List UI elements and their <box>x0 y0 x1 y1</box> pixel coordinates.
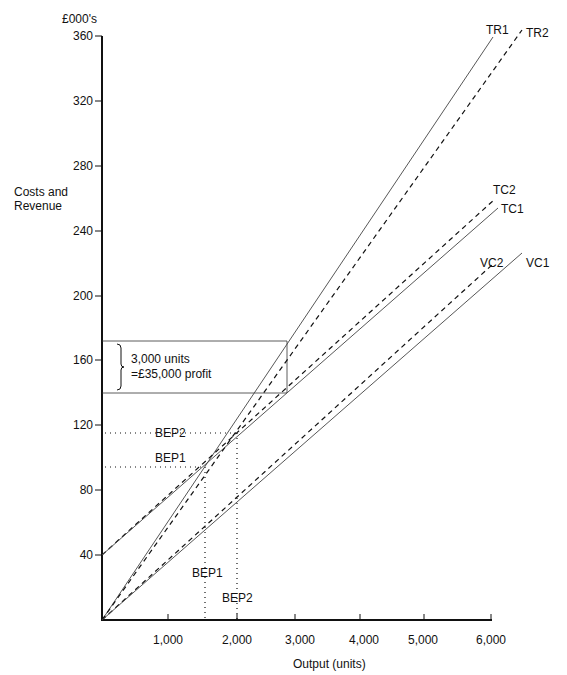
profit-text-line1: 3,000 units <box>131 352 190 366</box>
x-ticks: 1,000 2,000 3,000 4,000 5,000 6,000 <box>153 614 506 647</box>
y-tick-360: 360 <box>73 29 93 43</box>
tr1-line <box>102 37 493 620</box>
bep2-h-label: BEP2 <box>155 426 186 440</box>
y-tick-200: 200 <box>73 289 93 303</box>
profit-text-line2: =£35,000 profit <box>131 367 212 381</box>
y-tick-160: 160 <box>73 353 93 367</box>
tc1-line <box>102 208 498 555</box>
y-tick-320: 320 <box>73 94 93 108</box>
x-tick-1000: 1,000 <box>153 633 183 647</box>
vc2-line <box>102 264 493 620</box>
y-tick-40: 40 <box>80 548 94 562</box>
vc1-label: VC1 <box>526 256 550 270</box>
x-axis-label: Output (units) <box>293 657 366 671</box>
tr1-label: TR1 <box>486 23 509 37</box>
bep1-h-label: BEP1 <box>155 451 186 465</box>
y-tick-280: 280 <box>73 159 93 173</box>
break-even-chart: £000's Costs and Revenue 40 80 120 160 2… <box>0 0 567 675</box>
x-tick-5000: 5,000 <box>408 633 438 647</box>
tr2-label: TR2 <box>526 26 549 40</box>
y-tick-80: 80 <box>80 483 94 497</box>
tc1-label: TC1 <box>501 202 524 216</box>
x-tick-2000: 2,000 <box>222 633 252 647</box>
x-tick-6000: 6,000 <box>476 633 506 647</box>
y-ticks: 40 80 120 160 200 240 280 320 360 <box>73 29 102 562</box>
brace-icon <box>117 344 124 390</box>
series-lines <box>102 30 522 620</box>
y-unit-label: £000's <box>62 12 97 26</box>
y-axis-label-line1: Costs and <box>14 185 68 199</box>
bep2-v-label: BEP2 <box>222 591 253 605</box>
bep1-v-label: BEP1 <box>192 566 223 580</box>
y-tick-240: 240 <box>73 224 93 238</box>
tc2-label: TC2 <box>493 183 516 197</box>
y-tick-120: 120 <box>73 418 93 432</box>
x-tick-3000: 3,000 <box>285 633 315 647</box>
vc2-label: VC2 <box>480 256 504 270</box>
x-tick-4000: 4,000 <box>349 633 379 647</box>
y-axis-label-line2: Revenue <box>14 199 62 213</box>
tr2-line <box>102 30 522 620</box>
